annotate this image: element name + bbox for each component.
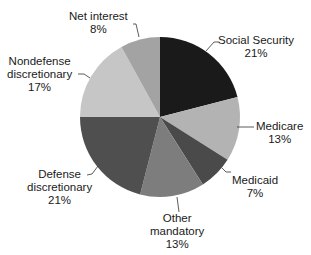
label-medicaid-pct: 7% [232, 187, 278, 200]
pie-slices [80, 37, 240, 197]
label-other-mandatory-line1: Other [150, 212, 204, 225]
leader-net-interest [133, 24, 139, 37]
label-defense-pct: 21% [27, 194, 92, 207]
label-net-interest: Net interest 8% [69, 10, 128, 36]
label-social-security-pct: 21% [218, 47, 294, 60]
label-medicare-pct: 13% [256, 133, 303, 146]
label-nondefense-line1: Nondefense [7, 55, 72, 68]
label-social-security-name: Social Security [218, 34, 294, 47]
label-other-mandatory-line2: mandatory [150, 225, 204, 238]
label-medicaid-name: Medicaid [232, 174, 278, 187]
leader-other-mandatory [177, 197, 179, 212]
label-other-mandatory-pct: 13% [150, 238, 204, 251]
label-defense-line2: discretionary [27, 181, 92, 194]
label-nondefense-pct: 17% [7, 81, 72, 94]
label-medicare: Medicare 13% [256, 120, 303, 146]
label-nondefense: Nondefense discretionary 17% [7, 55, 72, 94]
label-defense-line1: Defense [27, 168, 92, 181]
leader-medicaid [222, 168, 231, 172]
label-net-interest-pct: 8% [69, 23, 128, 36]
label-defense: Defense discretionary 21% [27, 168, 92, 207]
label-social-security: Social Security 21% [218, 34, 294, 60]
label-net-interest-name: Net interest [69, 10, 128, 23]
label-medicaid: Medicaid 7% [232, 174, 278, 200]
label-other-mandatory: Other mandatory 13% [150, 212, 204, 251]
label-medicare-name: Medicare [256, 120, 303, 133]
leader-nondefense [78, 74, 90, 78]
label-nondefense-line2: discretionary [7, 68, 72, 81]
